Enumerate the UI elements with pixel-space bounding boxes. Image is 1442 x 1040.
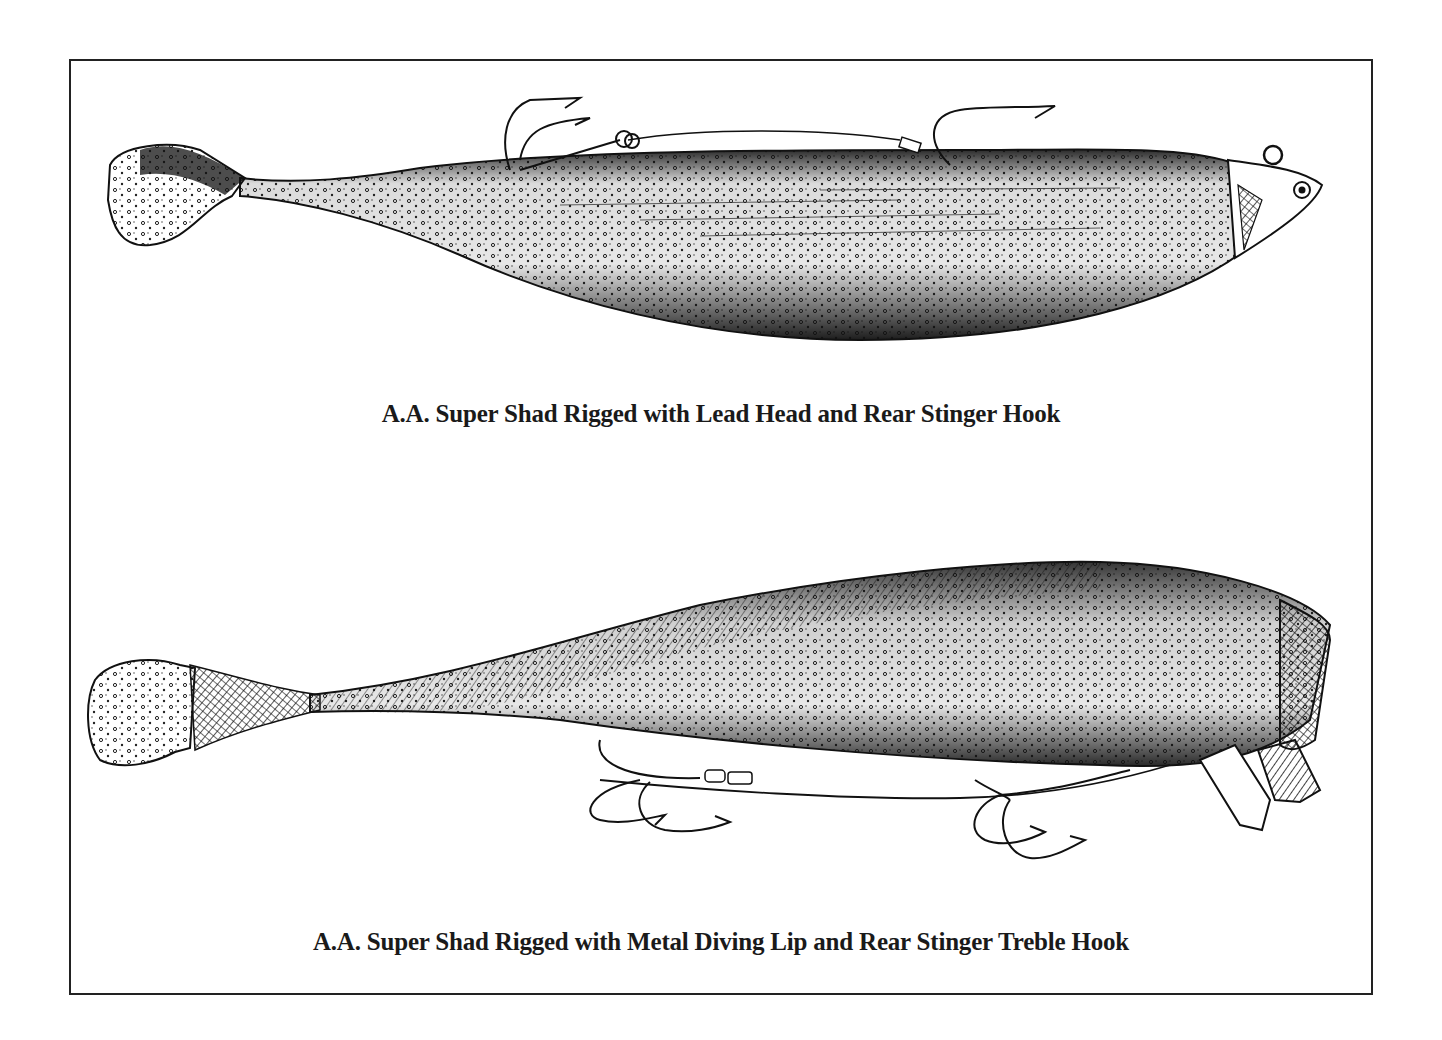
top-lure-illustration — [108, 98, 1322, 340]
bottom-lure-illustration — [88, 562, 1330, 858]
caption-top: A.A. Super Shad Rigged with Lead Head an… — [0, 400, 1442, 428]
caption-bottom: A.A. Super Shad Rigged with Metal Diving… — [0, 928, 1442, 956]
illustration-canvas — [0, 0, 1442, 1040]
